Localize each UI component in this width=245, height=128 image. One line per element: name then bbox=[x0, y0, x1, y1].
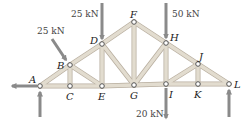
node-k-pin-icon bbox=[196, 82, 201, 87]
member-ij bbox=[166, 64, 198, 84]
node-label-k: K bbox=[193, 89, 202, 100]
member-dg bbox=[102, 44, 134, 85]
node-h-pin-icon bbox=[164, 41, 169, 46]
member-df bbox=[102, 22, 134, 44]
node-label-l: L bbox=[233, 79, 241, 90]
node-d-pin-icon bbox=[100, 42, 105, 47]
member-gh bbox=[134, 43, 166, 85]
member-ab bbox=[40, 65, 70, 86]
node-label-d: D bbox=[89, 35, 98, 46]
node-i-pin-icon bbox=[164, 82, 169, 87]
member-be bbox=[70, 65, 102, 86]
load-label-d: 25 kN bbox=[71, 9, 99, 19]
truss-diagram: A B C D E F G H I J K L 25 kN 25 kN 50 k… bbox=[0, 0, 245, 128]
node-label-g: G bbox=[130, 90, 138, 101]
member-eg bbox=[102, 85, 134, 86]
node-f-pin-icon bbox=[132, 20, 137, 25]
node-b-pin-icon bbox=[68, 63, 73, 68]
load-label-b: 25 kN bbox=[37, 26, 65, 36]
node-label-b: B bbox=[56, 60, 64, 71]
node-label-c: C bbox=[66, 91, 74, 102]
node-j-pin-icon bbox=[196, 62, 201, 67]
node-e-pin-icon bbox=[100, 84, 105, 89]
node-a-pin-icon bbox=[38, 84, 43, 89]
load-arrow-b bbox=[52, 39, 66, 60]
node-l-pin-icon bbox=[227, 82, 232, 87]
node-label-i: I bbox=[168, 89, 174, 100]
member-hj bbox=[166, 43, 198, 64]
node-c-pin-icon bbox=[68, 84, 73, 89]
load-label-h: 50 kN bbox=[172, 9, 200, 19]
node-label-f: F bbox=[129, 9, 138, 20]
node-label-j: J bbox=[197, 51, 204, 62]
member-bd bbox=[70, 44, 102, 65]
node-label-e: E bbox=[97, 91, 106, 102]
member-gi bbox=[134, 84, 166, 85]
node-g-pin-icon bbox=[132, 83, 137, 88]
member-fh bbox=[134, 22, 166, 43]
member-jl bbox=[198, 64, 229, 84]
node-label-a: A bbox=[28, 74, 36, 85]
load-label-i: 20 kN bbox=[136, 109, 164, 119]
node-label-h: H bbox=[169, 32, 179, 43]
